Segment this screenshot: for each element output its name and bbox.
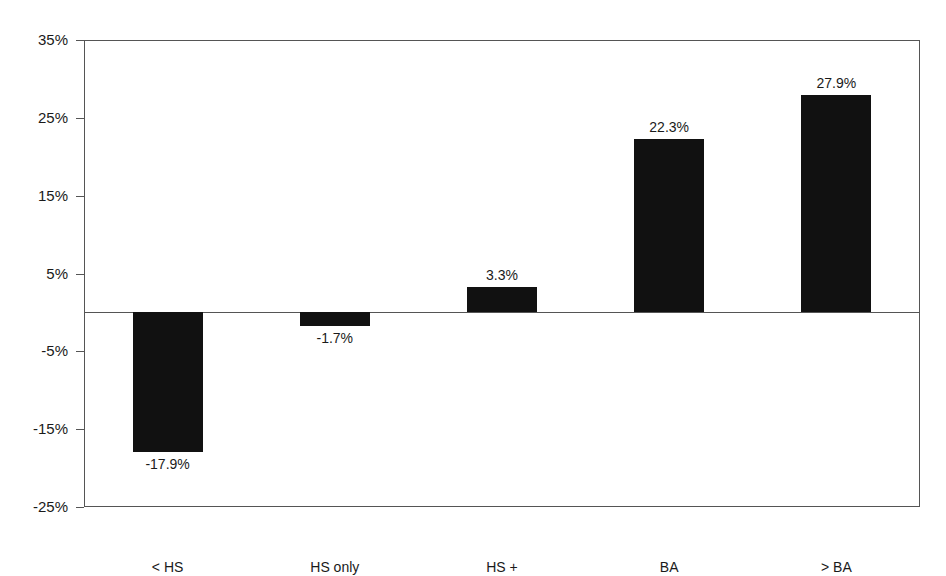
y-axis-tick-label: -15% xyxy=(33,419,68,439)
x-axis-category-label: < HS xyxy=(84,558,251,576)
bar-group: 27.9%> BA xyxy=(753,40,920,507)
y-axis-tick-mark xyxy=(76,507,84,508)
y-axis-tick-mark xyxy=(76,40,84,41)
x-axis-category-label: HS only xyxy=(251,558,418,576)
bar-value-label: 3.3% xyxy=(486,266,518,284)
y-axis-tick-label: 5% xyxy=(46,264,68,284)
y-axis-tick-mark xyxy=(76,274,84,275)
bar[interactable] xyxy=(467,287,537,313)
bar-group: 3.3%HS + xyxy=(418,40,585,507)
y-axis-tick-label: 25% xyxy=(38,108,68,128)
x-axis-category-label: BA xyxy=(586,558,753,576)
y-axis-tick-mark xyxy=(76,351,84,352)
y-axis-tick-label: -25% xyxy=(33,497,68,517)
bar[interactable] xyxy=(133,312,203,451)
bar-group: -1.7%HS only xyxy=(251,40,418,507)
y-axis-tick-mark xyxy=(76,196,84,197)
bar[interactable] xyxy=(634,139,704,313)
bar-value-label: 27.9% xyxy=(817,74,857,92)
bar-value-label: 22.3% xyxy=(649,118,689,136)
x-axis-category-label: > BA xyxy=(753,558,920,576)
y-axis-tick-mark xyxy=(76,118,84,119)
bar-group: 22.3%BA xyxy=(586,40,753,507)
bar[interactable] xyxy=(801,95,871,312)
bar-value-label: -17.9% xyxy=(145,455,189,473)
y-axis-tick-label: 15% xyxy=(38,186,68,206)
bar[interactable] xyxy=(300,312,370,325)
y-axis-tick-label: -5% xyxy=(41,341,68,361)
y-axis-tick-mark xyxy=(76,429,84,430)
bar-group: -17.9%< HS xyxy=(84,40,251,507)
bar-value-label: -1.7% xyxy=(316,329,353,347)
x-axis-category-label: HS + xyxy=(418,558,585,576)
y-axis-tick-label: 35% xyxy=(38,30,68,50)
